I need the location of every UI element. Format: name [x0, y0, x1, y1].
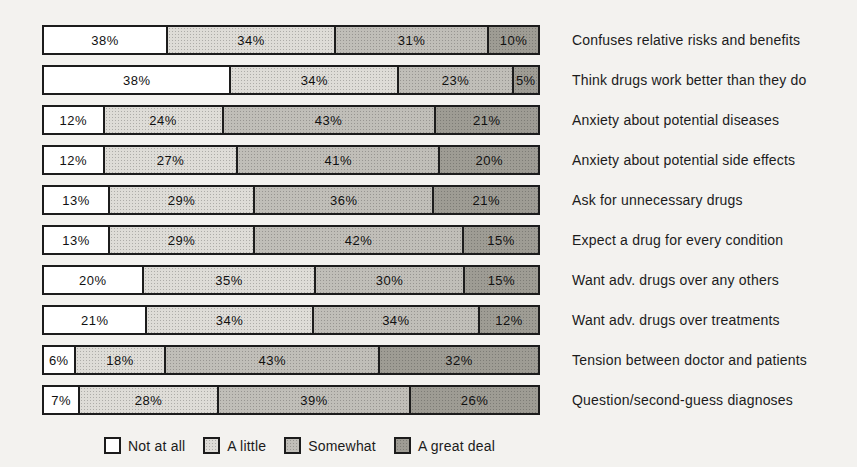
legend-label: A little	[227, 438, 266, 454]
stacked-bar: 20%35%30%15%	[42, 265, 540, 295]
category-label: Want adv. drugs over treatments	[572, 312, 780, 328]
segment-value-label: 5%	[516, 74, 536, 87]
bar-segment-somewhat: 43%	[222, 107, 434, 133]
chart-row: 12%24%43%21%Anxiety about potential dise…	[42, 105, 807, 135]
segment-value-label: 27%	[157, 154, 185, 167]
bar-segment-a-little: 29%	[108, 187, 253, 213]
bar-segment-not-at-all: 7%	[44, 387, 78, 413]
segment-value-label: 38%	[123, 74, 151, 87]
bar-segment-a-little: 29%	[108, 227, 253, 253]
bar-segment-a-great-deal: 12%	[478, 307, 538, 333]
chart-row: 20%35%30%15%Want adv. drugs over any oth…	[42, 265, 807, 295]
legend-item-a-great-deal: A great deal	[394, 437, 495, 454]
segment-value-label: 15%	[487, 234, 515, 247]
category-label: Think drugs work better than they do	[572, 72, 806, 88]
chart-row: 13%29%36%21%Ask for unnecessary drugs	[42, 185, 807, 215]
stacked-bar: 12%27%41%20%	[42, 145, 540, 175]
bar-segment-a-little: 28%	[78, 387, 217, 413]
segment-value-label: 15%	[488, 274, 516, 287]
bar-segment-not-at-all: 13%	[44, 187, 108, 213]
segment-value-label: 21%	[472, 194, 500, 207]
chart-row: 38%34%31%10%Confuses relative risks and …	[42, 25, 807, 55]
chart-row: 6%18%43%32%Tension between doctor and pa…	[42, 345, 807, 375]
bar-segment-not-at-all: 12%	[44, 107, 103, 133]
segment-value-label: 12%	[60, 114, 88, 127]
segment-value-label: 24%	[149, 114, 177, 127]
stacked-bar: 13%29%36%21%	[42, 185, 540, 215]
segment-value-label: 30%	[376, 274, 404, 287]
legend-swatch-icon	[284, 437, 301, 454]
segment-value-label: 10%	[500, 34, 528, 47]
bar-segment-a-little: 35%	[142, 267, 315, 293]
bar-segment-a-little: 24%	[103, 107, 222, 133]
segment-value-label: 7%	[51, 394, 71, 407]
bar-segment-not-at-all: 38%	[44, 27, 166, 53]
bar-segment-not-at-all: 20%	[44, 267, 142, 293]
segment-value-label: 31%	[398, 34, 426, 47]
segment-value-label: 20%	[79, 274, 107, 287]
stacked-bar: 21%34%34%12%	[42, 305, 540, 335]
bar-segment-not-at-all: 38%	[44, 67, 229, 93]
legend-swatch-icon	[394, 437, 411, 454]
bar-segment-not-at-all: 13%	[44, 227, 108, 253]
bar-segment-a-little: 18%	[74, 347, 165, 373]
segment-value-label: 12%	[495, 314, 523, 327]
segment-value-label: 34%	[216, 314, 244, 327]
segment-value-label: 23%	[442, 74, 470, 87]
category-label: Want adv. drugs over any others	[572, 272, 779, 288]
bar-segment-somewhat: 41%	[236, 147, 438, 173]
segment-value-label: 18%	[106, 354, 134, 367]
stacked-bar: 38%34%31%10%	[42, 25, 540, 55]
bar-segment-not-at-all: 12%	[44, 147, 103, 173]
bar-segment-somewhat: 39%	[217, 387, 409, 413]
legend-label: Somewhat	[308, 438, 376, 454]
segment-value-label: 29%	[168, 234, 196, 247]
category-label: Expect a drug for every condition	[572, 232, 783, 248]
bar-segment-a-great-deal: 26%	[409, 387, 538, 413]
legend-label: A great deal	[418, 438, 495, 454]
legend-item-a-little: A little	[203, 437, 266, 454]
legend-swatch-icon	[104, 437, 121, 454]
bar-segment-somewhat: 36%	[253, 187, 432, 213]
bar-segment-a-little: 27%	[103, 147, 237, 173]
segment-value-label: 21%	[473, 114, 501, 127]
bar-segment-somewhat: 34%	[312, 307, 478, 333]
bar-segment-a-great-deal: 32%	[378, 347, 538, 373]
chart-rows: 38%34%31%10%Confuses relative risks and …	[42, 25, 807, 425]
bar-segment-somewhat: 43%	[164, 347, 378, 373]
segment-value-label: 41%	[325, 154, 353, 167]
bar-segment-a-great-deal: 15%	[463, 267, 538, 293]
segment-value-label: 42%	[345, 234, 373, 247]
category-label: Anxiety about potential diseases	[572, 112, 779, 128]
segment-value-label: 13%	[62, 194, 90, 207]
segment-value-label: 21%	[81, 314, 109, 327]
segment-value-label: 39%	[300, 394, 328, 407]
category-label: Confuses relative risks and benefits	[572, 32, 800, 48]
segment-value-label: 28%	[135, 394, 163, 407]
segment-value-label: 29%	[168, 194, 196, 207]
bar-segment-a-great-deal: 20%	[438, 147, 538, 173]
chart-row: 7%28%39%26%Question/second-guess diagnos…	[42, 385, 807, 415]
bar-segment-not-at-all: 6%	[44, 347, 74, 373]
legend-item-somewhat: Somewhat	[284, 437, 376, 454]
segment-value-label: 34%	[237, 34, 265, 47]
segment-value-label: 13%	[62, 234, 90, 247]
stacked-bar-chart-figure: 38%34%31%10%Confuses relative risks and …	[0, 0, 857, 467]
bar-segment-somewhat: 31%	[334, 27, 487, 53]
segment-value-label: 12%	[60, 154, 88, 167]
segment-value-label: 32%	[445, 354, 473, 367]
segment-value-label: 38%	[91, 34, 119, 47]
bar-segment-a-little: 34%	[145, 307, 311, 333]
bar-segment-a-great-deal: 21%	[434, 107, 538, 133]
stacked-bar: 13%29%42%15%	[42, 225, 540, 255]
bar-segment-a-great-deal: 15%	[462, 227, 538, 253]
bar-segment-a-little: 34%	[229, 67, 397, 93]
segment-value-label: 35%	[215, 274, 243, 287]
legend-label: Not at all	[128, 438, 185, 454]
category-label: Question/second-guess diagnoses	[572, 392, 793, 408]
chart-legend: Not at allA littleSomewhatA great deal	[104, 437, 495, 454]
category-label: Tension between doctor and patients	[572, 352, 807, 368]
bar-segment-somewhat: 23%	[397, 67, 511, 93]
segment-value-label: 20%	[475, 154, 503, 167]
segment-value-label: 34%	[301, 74, 329, 87]
